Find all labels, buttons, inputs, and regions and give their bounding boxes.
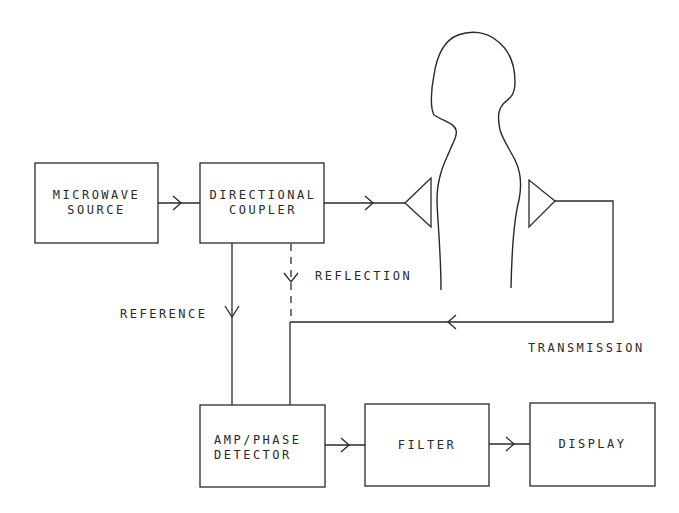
microwave-source-label: MICROWAVE SOURCE	[35, 188, 158, 218]
amp-phase-detector-label: AMP/PHASE DETECTOR	[214, 433, 324, 463]
block-label-line1: MICROWAVE	[35, 188, 158, 203]
receive-antenna-icon	[529, 180, 555, 227]
transmission-path	[290, 201, 613, 322]
reference-label: REFERENCE	[120, 307, 208, 321]
directional-coupler-label: DIRECTIONAL COUPLER	[200, 188, 326, 218]
block-label-line1: DISPLAY	[530, 437, 655, 452]
block-label-line1: DIRECTIONAL	[200, 188, 326, 203]
block-label-line2: SOURCE	[35, 203, 158, 218]
display-label: DISPLAY	[530, 437, 655, 452]
block-label-line2: DETECTOR	[214, 448, 324, 463]
block-label-line1: FILTER	[365, 438, 489, 453]
transmit-antenna-icon	[405, 178, 431, 227]
reflection-label: REFLECTION	[315, 269, 412, 283]
block-label-line1: AMP/PHASE	[214, 433, 324, 448]
filter-label: FILTER	[365, 438, 489, 453]
transmission-label: TRANSMISSION	[528, 341, 645, 355]
block-label-line2: COUPLER	[200, 203, 326, 218]
human-silhouette-icon	[431, 32, 520, 290]
